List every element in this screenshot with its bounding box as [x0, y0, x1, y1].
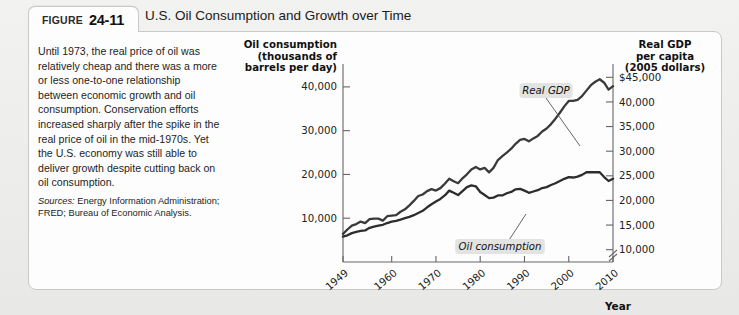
left-tick-label: 10,000 — [301, 213, 337, 224]
callout-real-gdp-label: Real GDP — [522, 85, 570, 96]
x-tick-label: 1949 — [323, 267, 350, 292]
right-axis-title-line: Real GDP — [639, 39, 692, 50]
right-tick-label: 25,000 — [619, 170, 655, 181]
note-body: Until 1973, the real price of oil was re… — [38, 44, 223, 190]
callout-oil-consumption: Oil consumption — [455, 214, 545, 254]
sources-lead: Sources: — [38, 196, 75, 206]
right-tick-label: 10,000 — [619, 244, 655, 255]
x-tick-label: 1990 — [505, 267, 532, 292]
right-tick-label: 30,000 — [619, 146, 655, 157]
figure-root: FIGURE 24-11 U.S. Oil Consumption and Gr… — [0, 0, 739, 315]
x-tick-label: 1970 — [416, 267, 443, 292]
callout-real-gdp: Real GDP — [520, 83, 581, 146]
right-tick-label: 20,000 — [619, 195, 655, 206]
callout-oil-consumption-label: Oil consumption — [459, 241, 542, 252]
chart-container: Oil consumption(thousands ofbarrels per … — [228, 36, 728, 311]
series-line-real-gdp — [343, 79, 613, 234]
callout-real-gdp-leader — [546, 98, 580, 146]
left-axis-title-line: barrels per day) — [245, 62, 337, 73]
x-tick-label: 1980 — [461, 267, 488, 292]
figure-tab: FIGURE 24-11 — [28, 6, 139, 32]
x-tick-label: 1960 — [372, 267, 399, 292]
chart-svg: Oil consumption(thousands ofbarrels per … — [228, 36, 728, 311]
left-axis-title-line: (thousands of — [257, 51, 337, 62]
left-tick-label: 40,000 — [301, 81, 337, 92]
x-tick-label: 2010 — [593, 267, 620, 292]
figure-note: Until 1973, the real price of oil was re… — [38, 44, 223, 220]
figure-title: U.S. Oil Consumption and Growth over Tim… — [145, 8, 411, 23]
figure-number: 24-11 — [89, 12, 124, 28]
x-tick-label: 2000 — [549, 267, 576, 292]
figure-label: FIGURE — [42, 14, 83, 26]
note-sources: Sources: Energy Information Administrati… — [38, 196, 223, 220]
right-tick-label: $45,000 — [619, 72, 661, 83]
right-tick-label: 40,000 — [619, 97, 655, 108]
right-tick-label: 35,000 — [619, 121, 655, 132]
right-tick-label: 15,000 — [619, 220, 655, 231]
left-tick-label: 30,000 — [301, 125, 337, 136]
left-tick-label: 20,000 — [301, 169, 337, 180]
left-axis-title-line: Oil consumption — [244, 39, 337, 50]
x-axis-label: Year — [604, 300, 632, 311]
right-axis-title-line: per capita — [636, 51, 694, 62]
series-line-oil-consumption — [343, 172, 613, 236]
